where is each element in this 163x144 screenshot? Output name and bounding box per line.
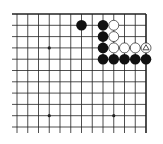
black-stone <box>108 54 119 65</box>
black-stone <box>98 43 109 54</box>
board-grid <box>12 14 146 133</box>
star-point <box>48 46 51 49</box>
white-stone <box>130 43 140 53</box>
black-stone <box>98 20 109 31</box>
black-stone <box>130 54 141 65</box>
go-board <box>0 0 163 144</box>
star-point <box>112 114 115 117</box>
white-stone <box>109 43 119 53</box>
black-stone <box>141 54 152 65</box>
white-stone <box>120 43 130 53</box>
black-stone <box>76 20 87 31</box>
star-point <box>48 114 51 117</box>
black-stone <box>119 54 130 65</box>
white-stone <box>109 20 119 30</box>
white-stone <box>109 32 119 42</box>
black-stone <box>98 31 109 42</box>
black-stone <box>98 54 109 65</box>
